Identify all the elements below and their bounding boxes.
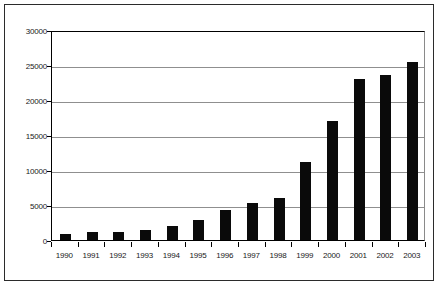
x-axis-tick-label: 1998	[270, 251, 287, 260]
bar	[113, 232, 124, 240]
x-axis-tick-mark	[345, 242, 346, 247]
y-axis-tick-label: 15000	[5, 132, 47, 141]
x-axis-tick-label: 1990	[56, 251, 73, 260]
x-axis-tick-mark	[238, 242, 239, 247]
x-axis-tick-label: 1997	[243, 251, 260, 260]
gridline	[52, 67, 424, 68]
x-axis-tick-label: 2000	[323, 251, 340, 260]
y-axis-tick-label: 10000	[5, 167, 47, 176]
y-axis-tick-label: 30000	[5, 27, 47, 36]
x-axis-tick-mark	[211, 242, 212, 247]
x-axis-tick-mark	[318, 242, 319, 247]
x-axis-tick-mark	[265, 242, 266, 247]
x-axis-tick-label: 1993	[136, 251, 153, 260]
x-axis-tick-mark	[78, 242, 79, 247]
gridline	[52, 137, 424, 138]
gridline	[52, 172, 424, 173]
bar	[167, 226, 178, 240]
gridline	[52, 207, 424, 208]
x-axis-tick-mark	[104, 242, 105, 247]
gridline	[52, 102, 424, 103]
bar	[327, 121, 338, 240]
chart-frame: 050001000015000200002500030000 199019911…	[4, 4, 434, 281]
bar	[407, 62, 418, 240]
x-axis-tick-mark	[185, 242, 186, 247]
y-axis-tick-label: 25000	[5, 62, 47, 71]
bar	[193, 220, 204, 240]
x-axis-tick-mark	[372, 242, 373, 247]
x-axis-tick-mark	[398, 242, 399, 247]
x-axis-tick-label: 2003	[403, 251, 420, 260]
bar	[87, 232, 98, 240]
x-axis-tick-mark	[51, 242, 52, 247]
x-axis-tick-label: 1999	[296, 251, 313, 260]
x-axis-tick-label: 1994	[163, 251, 180, 260]
x-axis-tick-label: 2002	[376, 251, 393, 260]
y-axis-tick-label: 0	[5, 237, 47, 246]
y-axis-tick-label: 20000	[5, 97, 47, 106]
x-axis-tick-mark	[425, 242, 426, 247]
x-axis-tick-mark	[158, 242, 159, 247]
bar	[354, 79, 365, 240]
x-axis-tick-label: 1995	[189, 251, 206, 260]
bar	[247, 203, 258, 240]
y-axis-tick-label: 5000	[5, 202, 47, 211]
x-axis-tick-mark	[291, 242, 292, 247]
bar	[300, 162, 311, 240]
x-axis-tick-label: 2001	[350, 251, 367, 260]
bar	[220, 210, 231, 240]
x-axis-tick-label: 1992	[109, 251, 126, 260]
bar	[274, 198, 285, 240]
bar	[380, 75, 391, 240]
bar-chart: 050001000015000200002500030000 199019911…	[5, 5, 435, 282]
plot-area	[51, 31, 425, 241]
x-axis-tick-label: 1996	[216, 251, 233, 260]
x-axis-tick-label: 1991	[83, 251, 100, 260]
bar	[60, 234, 71, 240]
x-axis-tick-mark	[131, 242, 132, 247]
bar	[140, 230, 151, 240]
